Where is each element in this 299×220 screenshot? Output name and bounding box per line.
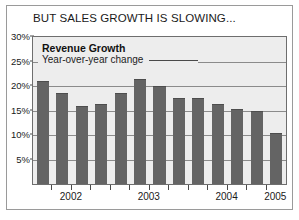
legend-title: Revenue Growth: [42, 42, 198, 54]
y-axis: 5%10%15%20%25%30%: [0, 36, 30, 185]
x-axis-tick: [246, 185, 247, 190]
bar: [192, 98, 204, 184]
x-axis-tick: [149, 185, 150, 190]
bar: [270, 133, 282, 184]
x-axis-tick: [51, 185, 52, 190]
bar: [231, 109, 243, 184]
bar: [251, 111, 263, 184]
x-axis-tick: [71, 185, 72, 190]
y-axis-tick-label: 5%: [2, 153, 30, 164]
x-axis-tick: [266, 185, 267, 190]
x-axis-tick-label: 2002: [60, 191, 82, 202]
y-axis-tick-label: 25%: [2, 55, 30, 66]
bar: [76, 106, 88, 184]
legend-subtitle: Year-over-year change: [42, 54, 143, 66]
y-axis-tick-label: 20%: [2, 80, 30, 91]
bar: [153, 86, 165, 184]
bar: [95, 104, 107, 184]
bar: [212, 104, 224, 184]
bar: [56, 93, 68, 184]
bar: [134, 79, 146, 184]
x-axis-tick: [168, 185, 169, 190]
y-axis-tick-label: 15%: [2, 104, 30, 115]
y-axis-tick-label: 10%: [2, 129, 30, 140]
x-axis-tick-label: 2004: [215, 191, 237, 202]
y-axis-tick-label: 30%: [2, 31, 30, 42]
bar: [37, 81, 49, 184]
legend: Revenue Growth Year-over-year change: [38, 40, 198, 70]
bar: [173, 98, 185, 184]
x-axis: 2002200320042005: [32, 185, 287, 215]
bar: [115, 93, 127, 184]
x-axis-tick: [90, 185, 91, 190]
legend-subtitle-row: Year-over-year change: [42, 54, 198, 66]
x-axis-tick: [227, 185, 228, 190]
x-axis-tick: [207, 185, 208, 190]
x-axis-tick: [188, 185, 189, 190]
chart-figure: BUT SALES GROWTH IS SLOWING... 5%10%15%2…: [0, 0, 299, 220]
x-axis-tick: [110, 185, 111, 190]
chart-title: BUT SALES GROWTH IS SLOWING...: [33, 12, 236, 24]
x-axis-tick-label: 2003: [138, 191, 160, 202]
x-axis-tick-label: 2005: [264, 191, 286, 202]
x-axis-tick: [129, 185, 130, 190]
legend-rule-icon: [149, 60, 198, 61]
